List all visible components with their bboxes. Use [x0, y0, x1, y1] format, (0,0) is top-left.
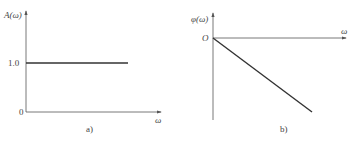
panel-b: φ(ω) O ω b)	[191, 13, 347, 134]
ylabel-b: φ(ω)	[191, 14, 208, 24]
phase-line	[213, 38, 312, 112]
figure: A(ω) 1.0 0 ω a) φ(ω) O ω b)	[0, 0, 350, 148]
tick-one-label: 1.0	[8, 58, 20, 68]
caption-a: a)	[86, 124, 93, 134]
xlabel-b: ω	[341, 26, 347, 36]
panel-a: A(ω) 1.0 0 ω a)	[3, 10, 161, 134]
origin-label: O	[202, 33, 209, 43]
xlabel-a: ω	[155, 115, 161, 125]
ylabel-a: A(ω)	[3, 10, 22, 20]
tick-zero-label: 0	[19, 107, 24, 117]
caption-b: b)	[280, 124, 288, 134]
